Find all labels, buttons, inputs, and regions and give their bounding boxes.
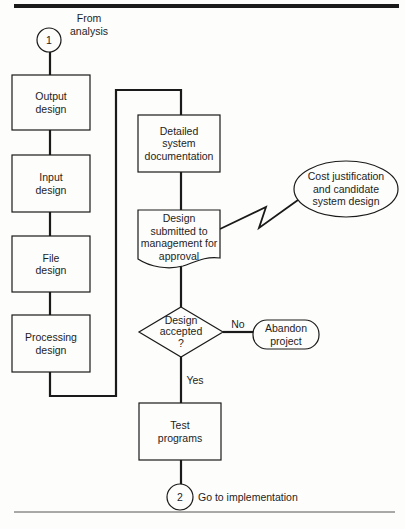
node-text-line: Abandon (265, 322, 307, 335)
node-text-line: and candidate (313, 183, 379, 196)
node-text-line: documentation (145, 150, 214, 163)
node-file-design: File design (12, 236, 90, 292)
node-text-line: project (270, 335, 302, 348)
node-text-line: Processing (25, 331, 77, 344)
connector-2-label: Go to implementation (198, 491, 318, 504)
node-design-accepted: Design accepted ? (139, 313, 223, 351)
node-text-line: design (36, 184, 67, 197)
node-text-line: Cost justification (308, 170, 384, 183)
edge-label-no: No (226, 318, 250, 331)
node-detailed-system-documentation: Detailed system documentation (138, 115, 220, 172)
node-text-line: Output (35, 90, 67, 103)
node-text-line: design (36, 103, 67, 116)
node-text-line: ? (178, 338, 184, 350)
node-text-line: system (162, 137, 195, 150)
node-text-line: Design (163, 212, 196, 225)
communication-link (220, 200, 298, 229)
connector-1-label: From analysis (64, 12, 114, 37)
node-text-line: Input (39, 171, 62, 184)
connector-1-label-line: From (64, 12, 114, 25)
top-rule (14, 4, 399, 8)
node-abandon-project: Abandon project (253, 320, 319, 349)
node-text-line: approval (159, 250, 199, 263)
node-text-line: Test (170, 419, 189, 432)
node-design-submitted: Design submitted to management for appro… (136, 211, 222, 263)
edge-label-yes: Yes (183, 374, 207, 387)
node-processing-design: Processing design (12, 315, 90, 372)
node-text-line: submitted to (150, 225, 207, 238)
node-output-design: Output design (12, 75, 90, 130)
node-text-line: design (36, 344, 67, 357)
node-text-line: design (36, 264, 67, 277)
node-text-line: File (43, 252, 60, 265)
connector-1-number: 1 (37, 33, 61, 47)
node-cost-justification: Cost justification and candidate system … (294, 165, 398, 213)
connector-2-number: 2 (168, 490, 192, 504)
node-input-design: Input design (12, 155, 90, 212)
connector-1-label-line: analysis (64, 25, 114, 38)
node-text-line: system design (312, 195, 379, 208)
node-text-line: Detailed (160, 125, 199, 138)
node-test-programs: Test programs (139, 403, 221, 460)
node-text-line: management for (141, 237, 217, 250)
node-text-line: programs (158, 432, 202, 445)
